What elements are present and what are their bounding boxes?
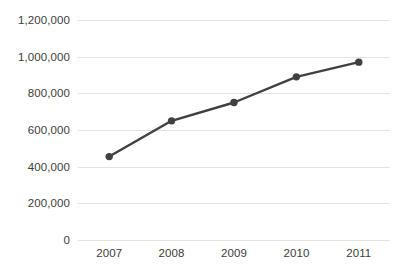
x-axis-tick-label: 2010	[266, 247, 326, 259]
data-point-marker	[106, 153, 113, 160]
x-axis-tick-label: 2009	[204, 247, 264, 259]
x-axis-tick-label: 2007	[79, 247, 139, 259]
line-chart: 0200,000400,000600,000800,0001,000,0001,…	[0, 0, 398, 273]
x-axis-tick-label: 2008	[142, 247, 202, 259]
y-axis-tick-label: 200,000	[0, 197, 70, 209]
data-series-svg	[78, 20, 390, 240]
data-point-marker	[168, 117, 175, 124]
y-axis-tick-label: 800,000	[0, 87, 70, 99]
plot-area	[78, 20, 390, 240]
gridline	[78, 240, 390, 241]
series-line	[109, 62, 359, 156]
data-point-marker	[293, 73, 300, 80]
y-axis-tick-label: 1,200,000	[0, 14, 70, 26]
y-axis-tick-label: 1,000,000	[0, 51, 70, 63]
y-axis-tick-label: 0	[0, 234, 70, 246]
x-axis-tick-label: 2011	[329, 247, 389, 259]
y-axis-tick-label: 600,000	[0, 124, 70, 136]
data-point-marker	[230, 99, 237, 106]
y-axis-tick-label: 400,000	[0, 161, 70, 173]
data-point-marker	[355, 58, 362, 65]
